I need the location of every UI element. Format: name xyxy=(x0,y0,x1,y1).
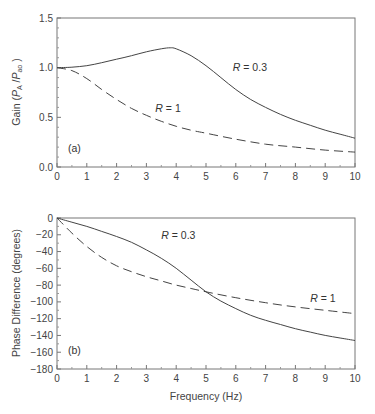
x-tick-label: 8 xyxy=(293,373,299,384)
x-tick-label: 0 xyxy=(54,373,60,384)
x-tick-label: 9 xyxy=(322,373,328,384)
x-tick-label: 3 xyxy=(144,373,150,384)
y-tick-label: 1.0 xyxy=(39,62,53,73)
gain-line-r1 xyxy=(57,68,355,152)
phase-line-r03 xyxy=(57,218,355,341)
x-tick-label: 3 xyxy=(144,171,150,182)
gain-x-axis: 012345678910 xyxy=(54,163,361,182)
gain-annotation-r1: R = 1 xyxy=(155,102,181,114)
x-tick-label: 6 xyxy=(233,373,239,384)
x-tick-label: 7 xyxy=(263,171,269,182)
x-tick-label: 0 xyxy=(54,171,60,182)
x-tick-label: 9 xyxy=(322,171,328,182)
y-tick-label: −180 xyxy=(30,364,53,375)
gain-plot-frame xyxy=(57,18,355,167)
x-tick-label: 7 xyxy=(263,373,269,384)
phase-panel-label: (b) xyxy=(68,344,81,356)
phase-panel: 0−20−40−60−80−100−120−140−160−180 012345… xyxy=(10,213,361,403)
x-tick-label: 10 xyxy=(349,373,361,384)
phase-y-axis-title: Phase Difference (degrees) xyxy=(10,229,22,357)
gain-y-axis: 0.00.51.01.5 xyxy=(39,13,61,173)
y-tick-label: −20 xyxy=(36,229,53,240)
y-tick-label: −100 xyxy=(30,296,53,307)
x-tick-label: 5 xyxy=(203,373,209,384)
y-tick-label: 0.5 xyxy=(39,112,53,123)
x-tick-label: 2 xyxy=(114,171,120,182)
phase-annotation-r03: R = 0.3 xyxy=(161,229,195,241)
x-tick-label: 4 xyxy=(173,373,179,384)
x-tick-label: 1 xyxy=(84,171,90,182)
y-tick-label: −120 xyxy=(30,313,53,324)
x-tick-label: 1 xyxy=(84,373,90,384)
x-tick-label: 2 xyxy=(114,373,120,384)
gain-panel: 0.00.51.01.5 012345678910 R = 0.3 R = 1 … xyxy=(10,13,361,183)
phase-y-axis: 0−20−40−60−80−100−120−140−160−180 xyxy=(30,213,61,375)
x-tick-label: 4 xyxy=(173,171,179,182)
phase-x-axis-title: Frequency (Hz) xyxy=(170,390,242,402)
phase-x-axis: 012345678910 xyxy=(54,365,361,384)
y-tick-label: 0 xyxy=(47,213,53,224)
gain-y-axis-title: Gain (PA /Pao ) xyxy=(10,58,23,125)
x-tick-label: 5 xyxy=(203,171,209,182)
y-tick-label: 0.0 xyxy=(39,162,53,173)
y-tick-label: −40 xyxy=(36,246,53,257)
x-tick-label: 10 xyxy=(349,171,361,182)
phase-annotation-r1: R = 1 xyxy=(310,292,336,304)
y-tick-label: −80 xyxy=(36,280,53,291)
x-tick-label: 6 xyxy=(233,171,239,182)
y-tick-label: −140 xyxy=(30,330,53,341)
y-tick-label: 1.5 xyxy=(39,13,53,24)
x-tick-label: 8 xyxy=(293,171,299,182)
gain-annotation-r03: R = 0.3 xyxy=(233,61,267,73)
y-tick-label: −60 xyxy=(36,263,53,274)
figure: 0.00.51.01.5 012345678910 R = 0.3 R = 1 … xyxy=(0,0,375,414)
gain-panel-label: (a) xyxy=(68,142,81,154)
gain-line-r03 xyxy=(57,48,355,138)
y-tick-label: −160 xyxy=(30,347,53,358)
